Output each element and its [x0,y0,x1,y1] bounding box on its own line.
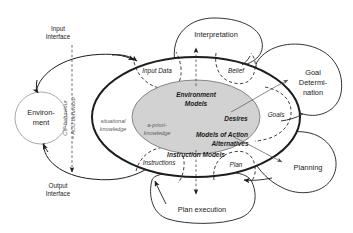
output-interface-label-line1: Output [49,182,68,190]
action-alternatives-label-line1: Models of Action [196,131,248,138]
situational-knowledge-label-line1: situational [100,118,126,124]
apriori-knowledge-label-line2: knowledge [144,130,171,136]
output-interface-label-line2: Interface [46,190,71,197]
goal-determination-label-line2: Determi- [299,78,328,87]
region-belief-label: Belief [228,67,245,74]
interpretation-label: Interpretation [194,30,238,39]
environment-models-label-line2: Models [185,100,208,107]
cip-behaviour-label: CIP behaviour [62,99,68,135]
action-alternatives-label-line2: Alternatives [210,140,249,147]
environment-label-line2: ment [33,118,49,127]
input-interface-label-line1: Input [51,25,65,33]
region-instructions-label: Instructions [143,159,176,166]
apriori-knowledge-label-line1: a-priori- [147,122,166,128]
diagram-canvas: Environ- ment Input Interface Output Int… [0,0,353,233]
acu-behaviour-label: = ACU behaviour [70,96,76,140]
goal-determination-label-line1: Goal [305,68,321,77]
desires-label: Desires [224,115,248,122]
input-interface-label-line2: Interface [46,33,71,40]
environment-label-line1: Environ- [27,108,55,117]
environment-models-label-line1: Environment [176,91,217,98]
planning-label: Planning [294,163,323,172]
goal-determination-label-line3: nation [303,88,323,97]
region-input-data-label: Input Data [142,67,172,75]
lobe-plan-execution [151,172,256,223]
situational-knowledge-label-line2: knowledge [100,126,127,132]
region-goals-label: Goals [268,111,285,118]
agent-architecture-diagram: Environ- ment Input Interface Output Int… [0,0,353,233]
region-plan-label: Plan [230,161,243,168]
plan-execution-label: Plan execution [178,205,226,214]
